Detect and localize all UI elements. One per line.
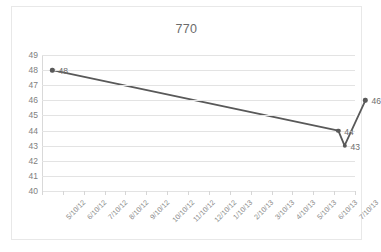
x-axis-tick-mark	[209, 191, 210, 195]
x-axis-tick-mark	[63, 191, 64, 195]
x-axis-tick-mark	[167, 191, 168, 195]
x-axis-tick-label: 4/10/13	[294, 198, 317, 221]
data-point-label: 43	[351, 142, 360, 152]
y-axis-tick-label: 45	[4, 110, 38, 120]
y-axis-tick-label: 46	[4, 95, 38, 105]
x-axis-tick-mark	[84, 191, 85, 195]
gridline	[42, 131, 355, 132]
y-axis-tick-label: 41	[4, 171, 38, 181]
x-axis-tick-mark	[251, 191, 252, 195]
gridline	[42, 161, 355, 162]
gridline	[42, 146, 355, 147]
y-axis-tick-label: 47	[4, 80, 38, 90]
x-axis-tick-mark	[230, 191, 231, 195]
x-axis-tick-label: 5/10/13	[315, 198, 338, 221]
x-axis-tick-mark	[334, 191, 335, 195]
x-axis-tick-mark	[292, 191, 293, 195]
data-point-label: 48	[58, 66, 67, 76]
y-axis-tick-label: 49	[4, 50, 38, 60]
gridline	[42, 70, 355, 71]
x-axis-tick-label: 10/10/12	[170, 198, 196, 224]
x-axis-tick-mark	[146, 191, 147, 195]
x-axis-tick-mark	[125, 191, 126, 195]
y-axis-tick-label: 43	[4, 141, 38, 151]
x-axis-tick-label: 3/10/13	[273, 198, 296, 221]
gridline	[42, 85, 355, 86]
y-axis-tick-label: 40	[4, 186, 38, 196]
gridline	[42, 100, 355, 101]
x-axis-tick-mark	[42, 191, 43, 195]
gridline	[42, 55, 355, 56]
data-point-marker	[363, 98, 367, 102]
y-axis-tick-label: 48	[4, 65, 38, 75]
series-line	[42, 55, 355, 191]
x-axis-tick-label: 6/10/12	[85, 198, 108, 221]
x-axis-tick-label: 7/10/13	[357, 198, 380, 221]
x-axis-tick-mark	[313, 191, 314, 195]
x-axis-tick-mark	[355, 191, 356, 195]
chart-title: 770	[0, 22, 373, 36]
x-axis-tick-mark	[188, 191, 189, 195]
y-axis-tick-labels: 40414243444546474849	[0, 55, 38, 191]
x-axis-tick-mark	[272, 191, 273, 195]
x-axis-tick-label: 5/10/12	[64, 198, 87, 221]
x-axis-tick-labels: 5/10/126/10/127/10/128/10/129/10/1210/10…	[0, 196, 373, 246]
data-point-label: 46	[371, 96, 380, 106]
y-axis-tick-label: 44	[4, 126, 38, 136]
plot-area: 48444346	[42, 55, 355, 191]
x-axis-tick-mark	[105, 191, 106, 195]
x-axis-tick-label: 7/10/12	[106, 198, 129, 221]
x-axis-tick-label: 6/10/13	[336, 198, 359, 221]
x-axis-tick-label: 9/10/12	[148, 198, 171, 221]
gridline	[42, 176, 355, 177]
data-point-label: 44	[344, 127, 353, 137]
x-axis-tick-label: 2/10/13	[252, 198, 275, 221]
gridline	[42, 115, 355, 116]
y-axis-tick-label: 42	[4, 156, 38, 166]
x-axis-tick-label: 8/10/12	[127, 198, 150, 221]
